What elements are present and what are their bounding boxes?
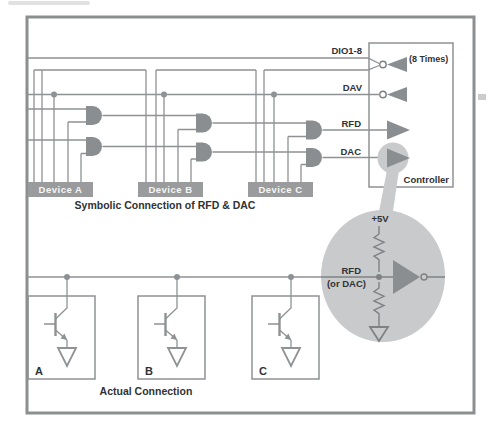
- device-letter: C: [259, 365, 267, 377]
- dac-label: DAC: [340, 146, 361, 157]
- symbolic-caption: Symbolic Connection of RFD & DAC: [75, 199, 256, 211]
- symbolic-device-bars: Device A Device B Device C: [28, 182, 313, 197]
- buffer-output-circle: [421, 274, 427, 280]
- device-letter: B: [145, 365, 153, 377]
- gpib-handshake-diagram: Device A Device B Device C DIO1-8 (8 Tim…: [0, 0, 489, 432]
- dio-times-note: (8 Times): [409, 54, 448, 64]
- actual-caption: Actual Connection: [100, 385, 193, 397]
- dio-label: DIO1-8: [331, 45, 362, 56]
- scanned-figure-page: Device A Device B Device C DIO1-8 (8 Tim…: [0, 0, 489, 432]
- dav-tap-junction: [161, 92, 167, 98]
- dav-tap-junction: [271, 92, 277, 98]
- device-b-label: Device B: [148, 184, 192, 195]
- dav-tap-junction: [51, 92, 57, 98]
- node-junction: [376, 274, 382, 280]
- supply-label: +5V: [371, 213, 389, 224]
- controller-label: Controller: [404, 174, 450, 185]
- scan-smudge: [8, 1, 90, 5]
- dav-label: DAV: [343, 82, 363, 93]
- figure-frame: [27, 17, 474, 413]
- scan-mark: [478, 94, 486, 100]
- magnifier-signal-line2: (or DAC): [327, 278, 366, 289]
- magnifier-signal-line1: RFD: [341, 265, 361, 276]
- rfd-label: RFD: [341, 118, 361, 129]
- device-letter: A: [35, 365, 43, 377]
- device-c-label: Device C: [258, 184, 302, 195]
- device-a-label: Device A: [39, 184, 83, 195]
